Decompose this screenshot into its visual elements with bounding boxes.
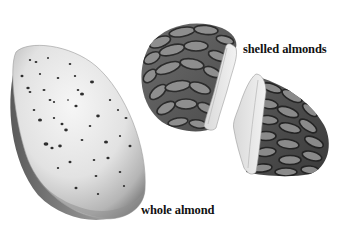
whole-almond-label: whole almond xyxy=(141,203,214,218)
shelled-almonds-label: shelled almonds xyxy=(243,42,327,57)
shelled-almond-piece-1 xyxy=(141,23,237,131)
illustration-art xyxy=(0,0,356,233)
shelled-almond-piece-2 xyxy=(233,74,328,176)
whole-almond xyxy=(10,45,145,220)
almond-illustration: shelled almonds whole almond xyxy=(0,0,356,233)
